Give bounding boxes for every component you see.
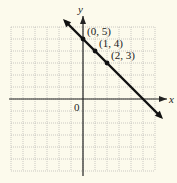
data-point [81,37,86,42]
y-axis-arrow-icon [80,16,86,24]
coordinate-graph: x y 0 (0, 5)(1, 4)(2, 3) [0,0,177,183]
data-point [93,49,98,54]
point-label: (2, 3) [111,49,135,62]
origin-label: 0 [74,101,80,113]
data-point [105,61,110,66]
x-axis-label: x [168,93,174,105]
x-axis-arrow-icon [159,96,167,102]
y-axis-label: y [77,3,83,15]
